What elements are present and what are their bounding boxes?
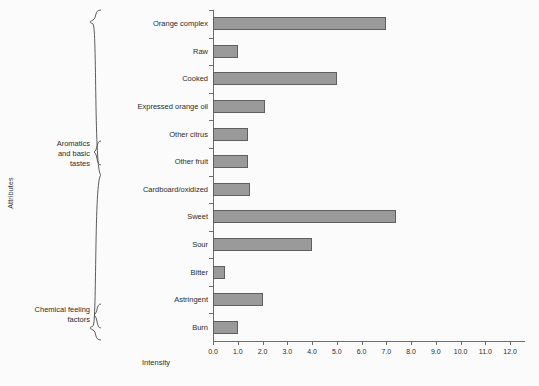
x-axis-tick (461, 341, 462, 345)
y-axis-tick (209, 258, 213, 259)
x-axis-tick-label: 8.0 (406, 348, 416, 355)
category-label: Cooked (182, 73, 208, 84)
bar (213, 72, 337, 85)
y-axis-tick (209, 120, 213, 121)
bar (213, 210, 396, 223)
x-axis-tick-label: 11.0 (479, 348, 492, 355)
category-label-column: Orange complexRawCookedExpressed orange … (95, 0, 208, 386)
category-label: Cardboard/oxidized (143, 184, 208, 195)
category-label: Other fruit (175, 156, 208, 167)
y-axis-tick (209, 38, 213, 39)
x-axis-line (213, 341, 525, 342)
bar (213, 321, 238, 334)
category-label: Other citrus (169, 129, 208, 140)
x-axis-tick (510, 341, 511, 345)
y-axis-tick (209, 286, 213, 287)
group-label-aromatics: Aromatics and basic tastes (20, 139, 90, 169)
category-label: Expressed orange oil (138, 101, 208, 112)
y-axis-tick (209, 313, 213, 314)
y-axis-tick (209, 231, 213, 232)
y-axis-tick (209, 93, 213, 94)
x-axis-tick-label: 10.0 (454, 348, 468, 355)
x-axis-tick-label: 6.0 (357, 348, 367, 355)
y-axis-tick (209, 176, 213, 177)
x-axis-tick-label: 9.0 (431, 348, 441, 355)
x-axis-tick (213, 341, 214, 345)
category-label: Burn (192, 322, 208, 333)
y-axis-tick (209, 10, 213, 11)
x-axis-title: Intensity (142, 358, 170, 367)
x-axis-tick (436, 341, 437, 345)
y-axis-tick (209, 65, 213, 66)
category-label: Bitter (190, 267, 208, 278)
bar (213, 238, 312, 251)
category-label: Astringent (174, 294, 208, 305)
category-label: Sweet (187, 211, 208, 222)
x-axis-tick-label: 1.0 (233, 348, 243, 355)
bar-chart: Attributes Aromatics and basic tastes Ch… (0, 0, 539, 386)
category-label: Sour (192, 239, 208, 250)
bar (213, 17, 386, 30)
bar (213, 45, 238, 58)
y-axis-tick (209, 203, 213, 204)
bar (213, 266, 225, 279)
category-label: Raw (193, 46, 208, 57)
bar (213, 100, 265, 113)
x-axis-tick-label: 7.0 (381, 348, 391, 355)
y-axis-title: Attributes (7, 177, 14, 209)
x-axis-tick (263, 341, 264, 345)
category-label: Orange complex (153, 18, 208, 29)
bar (213, 155, 248, 168)
x-axis-tick (312, 341, 313, 345)
bar (213, 183, 250, 196)
x-axis-tick (238, 341, 239, 345)
x-axis-tick (386, 341, 387, 345)
y-axis-tick (209, 148, 213, 149)
x-axis-tick (287, 341, 288, 345)
x-axis-tick-label: 12.0 (503, 348, 517, 355)
x-axis-tick (411, 341, 412, 345)
x-axis-tick-label: 3.0 (282, 348, 292, 355)
bar (213, 128, 248, 141)
x-axis-tick-label: 0.0 (208, 348, 218, 355)
x-axis-tick (337, 341, 338, 345)
x-axis-tick (362, 341, 363, 345)
x-axis-tick (485, 341, 486, 345)
x-axis-tick-label: 2.0 (258, 348, 268, 355)
plot-area: 0.01.02.03.04.05.06.07.08.09.010.011.012… (213, 10, 525, 341)
bar (213, 293, 263, 306)
group-label-chemical: Chemical feeling factors (12, 305, 90, 325)
y-axis-line (213, 10, 214, 341)
x-axis-tick-label: 4.0 (307, 348, 317, 355)
x-axis-tick-label: 5.0 (332, 348, 342, 355)
